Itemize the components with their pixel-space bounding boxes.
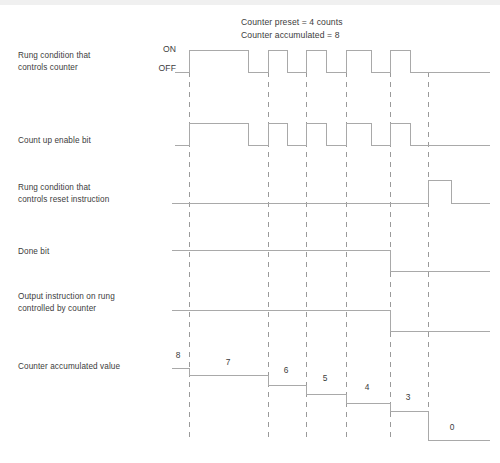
accumulated-step-value-0: 0 bbox=[445, 422, 459, 432]
waveform-done-bit bbox=[172, 251, 490, 272]
accumulated-step-value-7: 7 bbox=[221, 357, 235, 367]
accumulated-step-value-8: 8 bbox=[171, 350, 185, 360]
waveform-rung-controls-reset bbox=[172, 181, 490, 204]
transition-guides bbox=[190, 72, 429, 440]
accumulated-step-value-5: 5 bbox=[318, 373, 332, 383]
waveform-count-up-enable-bit bbox=[175, 124, 490, 146]
waveform-rung-controls-counter bbox=[175, 51, 490, 73]
accumulated-step-value-6: 6 bbox=[279, 365, 293, 375]
accumulated-step-value-3: 3 bbox=[401, 392, 415, 402]
waveform-output-instruction bbox=[172, 311, 490, 332]
timing-diagram-canvas bbox=[0, 0, 500, 463]
accumulated-step-value-4: 4 bbox=[360, 382, 374, 392]
